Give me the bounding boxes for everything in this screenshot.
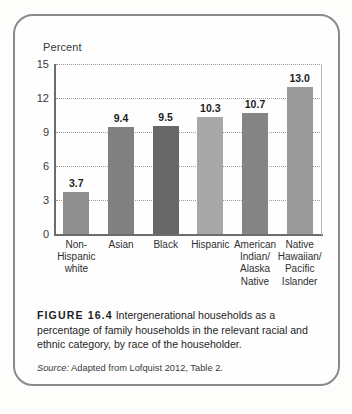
bar [63, 192, 89, 234]
bar-value-label: 10.3 [200, 102, 220, 114]
y-axis-tick-label: 6 [27, 160, 49, 172]
y-axis-tick-label: 0 [27, 228, 49, 240]
bar [153, 126, 179, 234]
figure-caption: FIGURE 16.4 Intergenerational households… [37, 308, 319, 352]
bar-value-label: 9.5 [158, 111, 173, 123]
bar-value-label: 9.4 [114, 112, 129, 124]
figure-frame: Percent 03691215 3.79.49.510.310.713.0 N… [13, 14, 340, 386]
y-axis-tick-label: 3 [27, 194, 49, 206]
bar-chart: Percent 03691215 3.79.49.510.310.713.0 N… [15, 16, 342, 301]
x-axis-category-label: Native Hawaiian/ Pacific Islander [272, 239, 327, 288]
bar-value-label: 13.0 [289, 72, 309, 84]
source-text: Adapted from Lofquist 2012, Table 2. [69, 363, 223, 373]
y-axis-title: Percent [43, 41, 82, 53]
bar-value-label: 3.7 [69, 177, 84, 189]
figure-caption-block: FIGURE 16.4 Intergenerational households… [37, 308, 319, 373]
source-label: Source: [37, 363, 69, 373]
bar [197, 117, 223, 234]
y-axis-tick-label: 9 [27, 126, 49, 138]
x-axis-line [54, 234, 323, 236]
bar [108, 127, 134, 234]
bar-value-label: 10.7 [245, 98, 265, 110]
bar [287, 87, 313, 234]
plot-area [54, 64, 322, 234]
bar [242, 113, 268, 234]
figure-number: FIGURE 16.4 [37, 309, 113, 321]
y-axis-tick-label: 15 [27, 58, 49, 70]
y-axis-tick-label: 12 [27, 92, 49, 104]
figure-source: Source: Adapted from Lofquist 2012, Tabl… [37, 363, 319, 373]
